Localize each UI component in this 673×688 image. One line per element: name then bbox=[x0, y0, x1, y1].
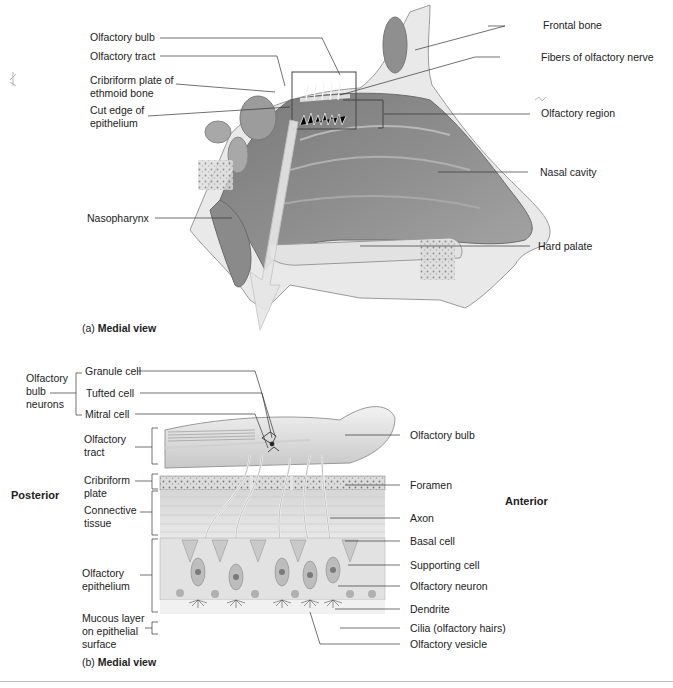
label-mucous-layer: Mucous layer on epithelial surface bbox=[82, 612, 154, 651]
caption-b-view: Medial view bbox=[98, 656, 156, 668]
label-olfactory-bulb-a: Olfactory bulb bbox=[90, 31, 155, 44]
caption-panel-a: (a) Medial view bbox=[82, 322, 156, 334]
label-cribriform-plate-a: Cribriform plate of ethmoid bone bbox=[90, 74, 190, 100]
caption-a-view: Medial view bbox=[98, 322, 156, 334]
bottom-divider bbox=[0, 681, 673, 682]
label-axon: Axon bbox=[410, 512, 434, 525]
label-olfactory-epithelium: Olfactory epithelium bbox=[82, 567, 142, 593]
label-tufted-cell: Tufted cell bbox=[86, 387, 134, 400]
caption-panel-b: (b) Medial view bbox=[82, 656, 156, 668]
label-mitral-cell: Mitral cell bbox=[85, 408, 129, 421]
label-supporting-cell: Supporting cell bbox=[410, 559, 479, 572]
orientation-posterior: Posterior bbox=[11, 489, 59, 502]
label-nasal-cavity: Nasal cavity bbox=[540, 166, 597, 179]
label-olfactory-bulb-neurons: Olfactory bulb neurons bbox=[26, 372, 76, 411]
label-fibers-olfactory-nerve: Fibers of olfactory nerve bbox=[541, 51, 654, 64]
label-cribriform-plate-b: Cribriform plate bbox=[84, 474, 139, 500]
label-cilia: Cilia (olfactory hairs) bbox=[410, 622, 506, 635]
nasal-cavity-illustration bbox=[190, 5, 550, 330]
label-olfactory-neuron: Olfactory neuron bbox=[410, 580, 488, 593]
label-cut-edge-epithelium: Cut edge of epithelium bbox=[90, 104, 160, 130]
label-nasopharynx: Nasopharynx bbox=[87, 212, 149, 225]
label-olfactory-region: Olfactory region bbox=[541, 107, 615, 120]
label-connective-tissue: Connective tissue bbox=[84, 504, 144, 530]
label-hard-palate: Hard palate bbox=[538, 240, 592, 253]
label-olfactory-tract-a: Olfactory tract bbox=[90, 50, 155, 63]
label-basal-cell: Basal cell bbox=[410, 535, 455, 548]
label-dendrite: Dendrite bbox=[410, 603, 450, 616]
label-olfactory-vesicle: Olfactory vesicle bbox=[410, 638, 487, 651]
label-granule-cell: Granule cell bbox=[85, 365, 141, 378]
orientation-anterior: Anterior bbox=[505, 495, 548, 508]
label-olfactory-tract-b: Olfactory tract bbox=[84, 433, 139, 459]
label-foramen: Foramen bbox=[410, 479, 452, 492]
label-olfactory-bulb-b: Olfactory bulb bbox=[410, 429, 475, 442]
caption-a-prefix: (a) bbox=[82, 322, 95, 334]
label-frontal-bone: Frontal bone bbox=[543, 19, 602, 32]
olfactory-tissue-illustration bbox=[160, 407, 395, 614]
caption-b-prefix: (b) bbox=[82, 656, 95, 668]
